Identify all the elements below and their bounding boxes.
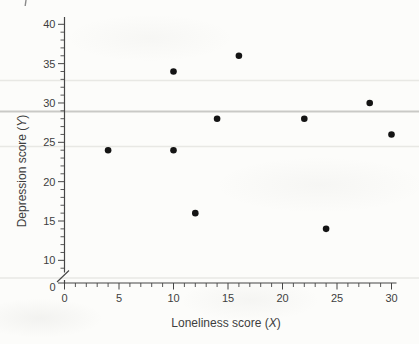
y-tick-label: 20 xyxy=(43,176,55,188)
y-axis-title: Depression score (Y) xyxy=(15,115,29,228)
data-point xyxy=(323,226,330,233)
data-points-layer xyxy=(105,52,395,232)
data-point xyxy=(170,147,177,154)
y-tick-label: 15 xyxy=(43,215,55,227)
y-tick-label: 30 xyxy=(43,97,55,109)
y-axis-title-text: Depression score ( xyxy=(15,127,29,228)
data-point xyxy=(236,52,243,59)
tick-layer: 10152025303540051015202530 xyxy=(43,18,397,303)
y-tick-label: 10 xyxy=(43,254,55,266)
data-point xyxy=(214,115,221,122)
y-tick-label: 40 xyxy=(43,18,55,30)
data-point xyxy=(105,147,112,154)
y-tick-label: 25 xyxy=(43,136,55,148)
data-point xyxy=(192,210,199,217)
data-point xyxy=(366,100,373,107)
x-tick-label: 30 xyxy=(385,292,397,304)
stray-scan-mark xyxy=(25,0,26,6)
data-point xyxy=(170,68,177,75)
x-axis-title-close: ) xyxy=(277,316,281,330)
y-tick-label: 35 xyxy=(43,58,55,70)
data-point xyxy=(388,131,395,138)
x-tick-label: 15 xyxy=(222,292,234,304)
x-axis-title: Loneliness score (X) xyxy=(171,316,280,330)
figure-canvas: 10152025303540051015202530 0 Depression … xyxy=(0,0,419,344)
x-axis-title-text: Loneliness score ( xyxy=(171,316,268,330)
x-tick-label: 0 xyxy=(61,292,67,304)
y-axis-break-slash xyxy=(57,271,69,283)
x-tick-label: 10 xyxy=(167,292,179,304)
x-tick-label: 25 xyxy=(331,292,343,304)
x-tick-label: 5 xyxy=(116,292,122,304)
y-axis-title-close: ) xyxy=(15,115,29,119)
x-tick-label: 20 xyxy=(276,292,288,304)
data-point xyxy=(301,115,308,122)
scatter-chart: 10152025303540051015202530 0 Depression … xyxy=(0,0,419,344)
y-axis-origin-label: 0 xyxy=(49,281,55,293)
